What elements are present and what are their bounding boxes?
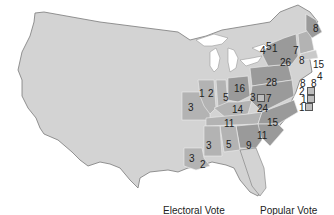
vote-mo: 3 [188, 103, 194, 113]
vote-md-b: 1 [299, 103, 305, 113]
popular-vote-square-md-b [305, 103, 313, 111]
vote-la-a: 3 [189, 154, 195, 164]
vote-ri: 4 [317, 72, 323, 82]
popular-vote-square-md [257, 94, 265, 102]
electoral-vote-label: Electoral Vote [163, 205, 225, 215]
us-election-map [0, 0, 334, 215]
vote-oh: 16 [234, 84, 245, 94]
vote-ny-b: 5 [266, 42, 272, 52]
vote-in: 5 [223, 93, 229, 103]
vote-nc: 15 [267, 118, 278, 128]
vote-pa: 28 [266, 78, 277, 88]
vote-ny-a: 4 [260, 46, 266, 56]
vote-il-b: 2 [208, 89, 214, 99]
vote-md-west: 3 [250, 93, 256, 103]
vote-ky: 14 [232, 105, 243, 115]
vote-sc: 11 [257, 131, 267, 141]
vote-va: 24 [257, 104, 268, 114]
popular-vote-label: Popular Vote [260, 205, 317, 215]
vote-vt: 7 [293, 46, 299, 56]
vote-nh: 8 [299, 56, 305, 66]
vote-la-b: 2 [200, 160, 206, 170]
vote-tn: 11 [224, 119, 234, 129]
popular-vote-square-md-a [307, 95, 315, 103]
vote-me: 8 [313, 24, 319, 34]
vote-ms: 3 [206, 141, 212, 151]
vote-ma: 15 [313, 60, 324, 70]
vote-ny-c: 1 [272, 44, 278, 54]
vote-ny: 26 [280, 58, 291, 68]
vote-il-a: 1 [199, 89, 205, 99]
vote-ga: 9 [246, 141, 252, 151]
popular-vote-square-de [307, 87, 315, 95]
vote-al: 5 [226, 140, 232, 150]
